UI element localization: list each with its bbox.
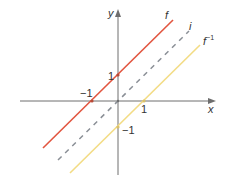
point-f-x-intercept [90, 99, 93, 102]
line-f-inverse [70, 45, 200, 173]
tick-x-neg-1: −1 [80, 87, 93, 99]
label-f-inverse-superscript: −1 [206, 34, 214, 41]
label-f-inverse: f−1 [203, 34, 214, 47]
y-axis-label: y [107, 7, 115, 19]
function-inverse-diagram: y x 1 −1 1 −1 f i f−1 [0, 0, 229, 183]
tick-y-neg-1: −1 [122, 124, 135, 136]
y-axis-arrow-icon [115, 9, 121, 17]
line-f [43, 20, 173, 148]
label-f: f [165, 9, 169, 21]
y-axis [115, 9, 121, 175]
line-i [58, 31, 189, 160]
tick-y-pos-1: 1 [108, 70, 114, 82]
label-i: i [189, 20, 192, 32]
x-axis-label: x [207, 103, 214, 115]
origin-point [117, 100, 119, 102]
point-finv-y-intercept [116, 125, 119, 128]
tick-x-pos-1: 1 [141, 103, 147, 115]
point-f-y-intercept [116, 73, 119, 76]
